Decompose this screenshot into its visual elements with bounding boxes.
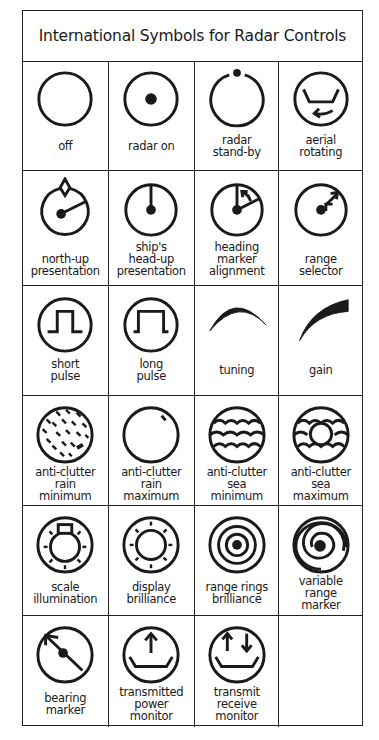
symbol-cell: transmittedpowermonitor — [109, 616, 195, 727]
label-line: marker — [279, 599, 362, 611]
symbol-cell: ship'shead-uppresentation — [109, 171, 195, 285]
symbol-cell: headingmarkeralignment — [195, 171, 280, 285]
symbol-cell: scaleillumination — [23, 506, 109, 615]
symbol-cell: range ringsbrilliance — [195, 506, 280, 615]
symbol-label: north-uppresentation — [23, 253, 108, 277]
transmit-receive-monitor-icon — [206, 622, 268, 684]
off-icon — [34, 68, 96, 130]
symbol-chart: International Symbols for Radar Controls… — [22, 10, 363, 726]
anti-clutter-sea-maximum-icon — [290, 402, 352, 464]
symbol-cell: anti-clutterseaminimum — [195, 396, 280, 505]
symbol-label: anti-clutterseaminimum — [195, 466, 279, 502]
symbol-label: shortpulse — [23, 358, 108, 382]
symbol-label: off — [23, 140, 108, 152]
label-line: minimum — [23, 490, 108, 502]
label-line: brilliance — [109, 593, 194, 605]
label-line: stand-by — [195, 146, 279, 158]
label-line: monitor — [195, 710, 279, 722]
symbol-label: variablerangemarker — [279, 575, 362, 611]
symbol-cell: anti-clutterrainminimum — [23, 396, 109, 505]
range-rings-brilliance-icon — [206, 512, 268, 574]
symbol-label: radarstand-by — [195, 134, 279, 158]
head-up-presentation-icon — [120, 177, 182, 239]
symbol-cell: longpulse — [109, 286, 195, 395]
tuning-icon — [206, 292, 268, 354]
symbol-label: displaybrilliance — [109, 581, 194, 605]
label-line: presentation — [23, 265, 108, 277]
transmitted-power-monitor-icon — [120, 622, 182, 684]
symbol-cell: anti-clutterrainmaximum — [109, 396, 195, 505]
symbol-row: scaleillumination displaybrilliancerange… — [23, 506, 362, 616]
label-line: radar on — [109, 140, 194, 152]
symbol-label: transmittedpowermonitor — [109, 686, 194, 722]
heading-marker-alignment-icon — [206, 177, 268, 239]
scale-illumination-icon — [34, 512, 96, 574]
symbol-label: bearingmarker — [23, 692, 108, 716]
symbol-cell: north-uppresentation — [23, 171, 109, 285]
label-line: selector — [279, 265, 362, 277]
range-selector-icon — [290, 177, 352, 239]
symbol-label: anti-clutterrainminimum — [23, 466, 108, 502]
symbol-cell: bearingmarker — [23, 616, 109, 727]
north-up-presentation-icon — [34, 177, 96, 239]
label-line: off — [23, 140, 108, 152]
symbol-label: range ringsbrilliance — [195, 581, 279, 605]
label-line: maximum — [279, 490, 362, 502]
symbol-cell: radar on — [109, 62, 195, 170]
symbol-cell: tuning — [195, 286, 280, 395]
anti-clutter-rain-minimum-icon — [34, 402, 96, 464]
anti-clutter-rain-maximum-icon — [120, 402, 182, 464]
label-line: alignment — [195, 265, 279, 277]
symbol-label: longpulse — [109, 358, 194, 382]
label-line: illumination — [23, 593, 108, 605]
symbol-cell: anti-clutterseamaximum — [279, 396, 362, 505]
bearing-marker-icon — [34, 622, 96, 684]
anti-clutter-sea-minimum-icon — [206, 402, 268, 464]
symbol-row: offradar onradarstand-byaerialrotating — [23, 62, 362, 171]
symbol-label: ship'shead-uppresentation — [109, 241, 194, 277]
label-line: maximum — [109, 490, 194, 502]
symbol-label: anti-clutterseamaximum — [279, 466, 362, 502]
symbol-cell: variablerangemarker — [279, 506, 362, 615]
symbol-cell: shortpulse — [23, 286, 109, 395]
symbol-label: transmitreceivemonitor — [195, 686, 279, 722]
symbol-label: aerialrotating — [279, 134, 362, 158]
symbol-label: anti-clutterrainmaximum — [109, 466, 194, 502]
symbol-cell: radarstand-by — [195, 62, 280, 170]
radar-standby-icon — [206, 68, 268, 130]
symbol-label: headingmarkeralignment — [195, 241, 279, 277]
display-brilliance-icon — [120, 512, 182, 574]
label-line: minimum — [195, 490, 279, 502]
radar-on-icon — [120, 68, 182, 130]
symbol-label: gain — [279, 364, 362, 376]
symbol-row: bearingmarkertransmittedpowermonitortran… — [23, 616, 362, 727]
symbol-label: tuning — [195, 364, 279, 376]
symbol-row: north-uppresentationship'shead-uppresent… — [23, 171, 362, 286]
long-pulse-icon — [120, 292, 182, 354]
symbol-row: shortpulselongpulsetuninggain — [23, 286, 362, 396]
label-line: presentation — [109, 265, 194, 277]
symbol-cell: displaybrilliance — [109, 506, 195, 615]
symbol-cell: aerialrotating — [279, 62, 362, 170]
symbol-label: radar on — [109, 140, 194, 152]
label-line: monitor — [109, 710, 194, 722]
chart-title: International Symbols for Radar Controls — [23, 11, 362, 62]
label-line: rotating — [279, 146, 362, 158]
label-line: tuning — [195, 364, 279, 376]
label-line: pulse — [23, 370, 108, 382]
symbol-cell: rangeselector — [279, 171, 362, 285]
aerial-rotating-icon — [290, 68, 352, 130]
symbol-label: rangeselector — [279, 253, 362, 277]
variable-range-marker-icon — [290, 512, 352, 574]
symbol-grid: offradar onradarstand-byaerialrotatingno… — [23, 62, 362, 727]
label-line: pulse — [109, 370, 194, 382]
empty-cell — [279, 616, 362, 727]
symbol-label: scaleillumination — [23, 581, 108, 605]
gain-icon — [290, 292, 352, 354]
symbol-row: anti-clutterrainminimumanti-clutterrainm… — [23, 396, 362, 506]
symbol-cell: gain — [279, 286, 362, 395]
label-line: marker — [23, 704, 108, 716]
symbol-cell: transmitreceivemonitor — [195, 616, 280, 727]
symbol-cell: off — [23, 62, 109, 170]
short-pulse-icon — [34, 292, 96, 354]
